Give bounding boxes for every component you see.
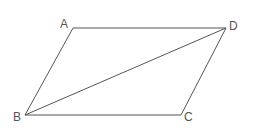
vertex-label-d: D bbox=[229, 19, 238, 33]
vertex-label-b: B bbox=[13, 110, 21, 124]
parallelogram-diagram: A D B C bbox=[0, 0, 253, 140]
vertex-label-a: A bbox=[60, 17, 68, 31]
diagonal-bd bbox=[25, 28, 226, 115]
edge-dc bbox=[181, 28, 226, 115]
edge-ba bbox=[25, 28, 73, 115]
vertex-label-c: C bbox=[184, 110, 193, 124]
